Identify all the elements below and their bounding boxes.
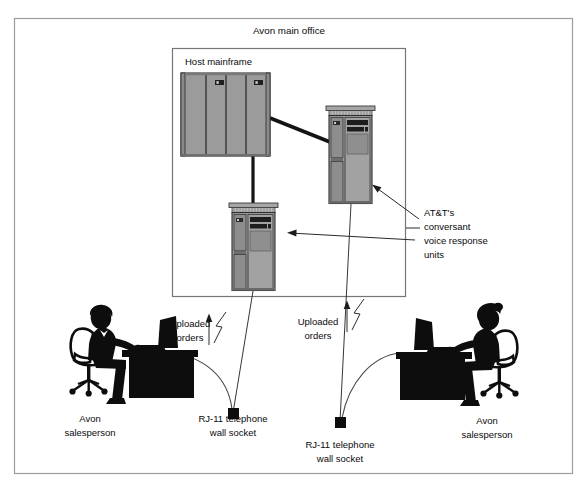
voice-response-unit-lower: [229, 203, 278, 291]
rj11-socket-left-label-line2: wall socket: [209, 427, 257, 438]
voice-units-label-line4: units: [424, 249, 444, 260]
uploaded-orders-left-line2: orders: [177, 332, 204, 343]
network-diagram: Avon main office Host mainframe: [0, 0, 586, 491]
laptop-right: [414, 318, 434, 350]
salesperson-right-label-line1: Avon: [476, 415, 497, 426]
uploaded-orders-right-line1: Uploaded: [298, 316, 339, 327]
rj11-socket-right-label-line1: RJ-11 telephone: [305, 439, 374, 450]
mainframe-label: Host mainframe: [185, 56, 252, 67]
office-title: Avon main office: [253, 25, 326, 36]
salesperson-left-label-line2: salesperson: [64, 427, 115, 438]
host-mainframe: [181, 73, 270, 156]
desk-right: [400, 352, 468, 400]
uploaded-orders-right-line2: orders: [305, 330, 332, 341]
voice-units-label-line2: conversant: [424, 221, 471, 232]
chair-post-right: [498, 367, 501, 383]
mainframe-indicator-1: [215, 80, 224, 85]
chair-post-left: [87, 365, 90, 381]
voice-units-label-line3: voice response: [424, 235, 488, 246]
salesperson-left-label-line1: Avon: [79, 413, 100, 424]
mainframe-indicator-2: [254, 80, 263, 85]
desk-left: [126, 350, 194, 398]
salesperson-right-label-line2: salesperson: [461, 429, 512, 440]
voice-units-label-line1: AT&T's: [424, 207, 454, 218]
rj11-socket-right-label-line2: wall socket: [316, 453, 364, 464]
rj11-socket-right: [335, 417, 346, 428]
rj11-socket-left-label-line1: RJ-11 telephone: [198, 413, 267, 424]
voice-response-unit-upper: [326, 106, 375, 204]
diagram-page: Avon main office Host mainframe: [0, 0, 586, 491]
laptop-left: [158, 316, 178, 348]
